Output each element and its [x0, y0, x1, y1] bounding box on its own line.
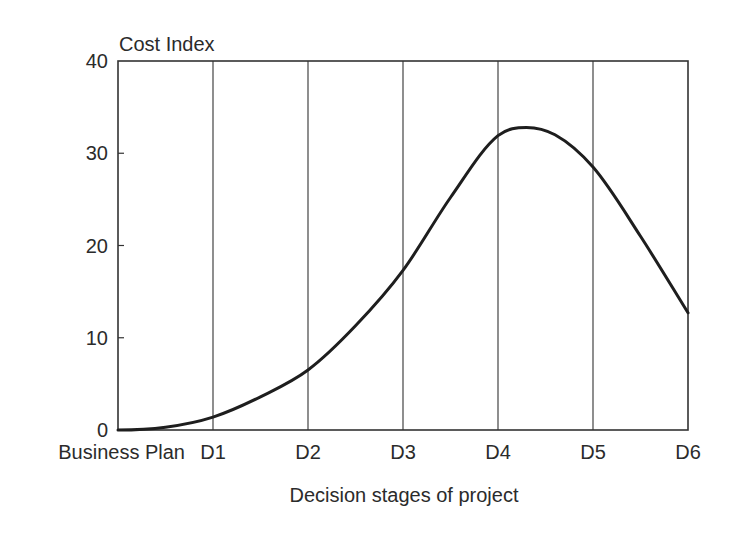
x-tick-label-d3: D3 — [390, 441, 416, 463]
x-tick-label-d6: D6 — [675, 441, 701, 463]
x-tick-label-d4: D4 — [485, 441, 511, 463]
y-tick-label-40: 40 — [86, 50, 108, 72]
x-tick-label-business-plan: Business Plan — [58, 441, 185, 463]
vertical-gridlines — [213, 61, 593, 430]
x-tick-label-d1: D1 — [200, 441, 226, 463]
x-axis-title: Decision stages of project — [289, 484, 518, 506]
y-axis-ticks — [118, 153, 124, 338]
x-tick-label-d5: D5 — [580, 441, 606, 463]
y-axis-tick-labels: 010203040 — [86, 50, 108, 441]
y-tick-label-20: 20 — [86, 235, 108, 257]
cost-index-chart: 010203040 Business PlanD1D2D3D4D5D6 Cost… — [0, 0, 731, 541]
y-tick-label-10: 10 — [86, 327, 108, 349]
y-axis-title: Cost Index — [119, 33, 215, 55]
x-tick-label-d2: D2 — [295, 441, 321, 463]
y-tick-label-30: 30 — [86, 142, 108, 164]
x-axis-tick-labels: Business PlanD1D2D3D4D5D6 — [58, 441, 701, 463]
y-tick-label-0: 0 — [97, 419, 108, 441]
